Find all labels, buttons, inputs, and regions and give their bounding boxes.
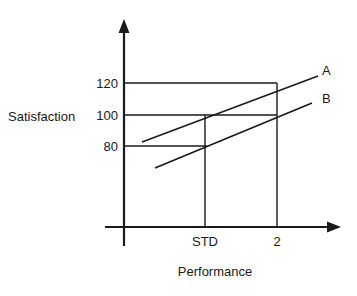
series-label-a: A xyxy=(322,64,331,77)
series-label-b: B xyxy=(322,92,331,105)
x-tick-label-std: STD xyxy=(192,235,218,248)
y-tick-label-80: 80 xyxy=(78,140,118,153)
x-axis-arrowhead xyxy=(327,222,341,233)
y-tick-label-120: 120 xyxy=(78,77,118,90)
y-axis-title: Satisfaction xyxy=(8,110,72,123)
series-line-a xyxy=(142,76,318,142)
chart-canvas xyxy=(0,0,357,296)
x-tick-label-2: 2 xyxy=(273,235,280,248)
y-tick-label-100: 100 xyxy=(78,109,118,122)
x-axis-title: Performance xyxy=(178,265,252,278)
chart-figure: 120 100 80 STD 2 Satisfaction Performanc… xyxy=(0,0,357,296)
y-axis-arrowhead xyxy=(119,19,130,33)
series-line-b xyxy=(155,103,312,168)
